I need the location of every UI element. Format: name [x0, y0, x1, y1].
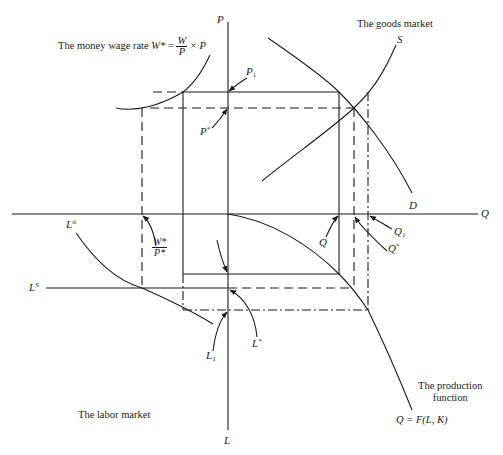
supply-s-label: S [397, 34, 403, 45]
p1-label: P1 [246, 66, 256, 79]
l1-label: L1 [206, 350, 216, 363]
lstar-label: L* [252, 338, 262, 349]
labor-demand-curve [76, 233, 213, 324]
qstar-label: Q* [388, 243, 399, 254]
goods-demand-curve [268, 38, 412, 193]
q-axis-label: Q [481, 208, 489, 219]
real-wage-label: W* P* [152, 237, 167, 258]
goods-supply-curve [262, 45, 396, 181]
p1-pointer [229, 78, 247, 91]
production-function-title: The production function [418, 380, 482, 404]
goods-market-title: The goods market [357, 19, 433, 30]
pstar-label: P* [200, 126, 210, 137]
qstar-pointer [355, 217, 387, 251]
l-axis-label: L [224, 435, 230, 446]
lstar-lower-pointer [230, 290, 257, 337]
q1-pointer [370, 216, 392, 229]
q-pointer [326, 216, 338, 237]
lstar-upper-pointer [217, 240, 227, 272]
q-label: Q [319, 237, 327, 248]
labor-market-title: The labor market [78, 410, 150, 421]
l1-pointer [213, 312, 227, 351]
labor-supply-label: LS [29, 282, 39, 293]
q1-label: Q1 [394, 226, 405, 239]
labor-demand-label: Ld [66, 219, 76, 230]
wage-fraction: W P [176, 36, 187, 57]
demand-d-label: D [409, 200, 417, 211]
production-function-equation: Q = F(L, K) [396, 415, 447, 426]
pstar-pointer [212, 109, 227, 128]
money-wage-curve [116, 55, 210, 109]
money-wage-title: The money wage rate W* = W P × P [58, 36, 206, 57]
p-axis-label: P [217, 14, 224, 25]
